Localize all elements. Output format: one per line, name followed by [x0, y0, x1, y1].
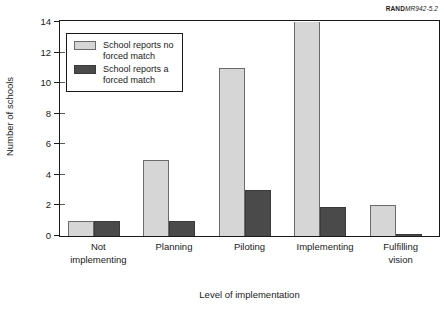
bar: [94, 221, 120, 236]
x-axis-tick-label: Piloting: [234, 241, 265, 254]
x-axis-tick-label: Fulfilling vision: [383, 241, 418, 266]
figure-source-code: MR942-5.2: [405, 5, 438, 12]
y-axis-tick-label: 6: [46, 138, 51, 149]
figure-container: RANDMR942-5.2 Number of schools 02468101…: [0, 0, 444, 311]
legend-label-forced-match: School reports a forced match: [103, 64, 169, 85]
bar: [169, 221, 195, 236]
bar: [245, 190, 271, 236]
legend-label-no-forced-match: School reports no forced match: [103, 40, 174, 61]
y-axis-tick-inner: [60, 143, 65, 144]
y-axis-tick-label: 0: [46, 229, 51, 240]
y-axis-tick-inner: [60, 174, 65, 175]
x-axis-tick-label: Not implementing: [70, 241, 127, 266]
legend-item-no-forced-match: School reports no forced match: [74, 40, 174, 61]
x-axis-tick-labels: Not implementingPlanningPilotingImplemen…: [59, 241, 440, 285]
bar: [320, 207, 346, 236]
y-axis-tick-inner: [60, 52, 65, 53]
x-axis-title: Level of implementation: [59, 289, 440, 300]
y-axis-tick: [54, 235, 60, 236]
chart-legend: School reports no forced match School re…: [66, 33, 183, 92]
bar: [68, 221, 94, 236]
y-axis-tick-label: 12: [40, 46, 51, 57]
y-axis-title: Number of schools: [2, 0, 18, 232]
y-axis-tick-label: 14: [40, 16, 51, 27]
figure-source-brand: RAND: [386, 5, 405, 12]
y-axis-tick-label: 8: [46, 107, 51, 118]
x-axis-tick-label: Planning: [155, 241, 192, 254]
x-axis-tick-label: Implementing: [297, 241, 354, 254]
y-axis-tick-label: 10: [40, 77, 51, 88]
y-axis-tick-inner: [60, 82, 65, 83]
y-axis-tick-inner: [60, 113, 65, 114]
bar: [396, 234, 422, 236]
legend-item-forced-match: School reports a forced match: [74, 64, 174, 85]
figure-source-tag: RANDMR942-5.2: [386, 6, 438, 13]
y-axis-tick-label: 4: [46, 168, 51, 179]
bar: [294, 22, 320, 236]
y-axis-tick: [54, 21, 60, 22]
y-axis-tick-inner: [60, 204, 65, 205]
bar: [219, 68, 245, 236]
bar: [143, 160, 169, 236]
y-axis-title-text: Number of schools: [5, 76, 16, 155]
bar: [370, 205, 396, 236]
y-axis-tick-label: 2: [46, 199, 51, 210]
legend-swatch-dark-icon: [74, 65, 96, 74]
legend-swatch-light-icon: [74, 41, 96, 50]
